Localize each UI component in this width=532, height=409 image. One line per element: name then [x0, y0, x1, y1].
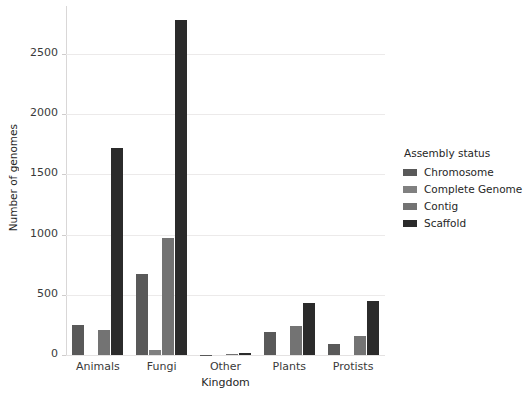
bar-fungi-complete-genome	[149, 350, 161, 355]
bar-group-other	[194, 6, 258, 355]
legend-label: Contig	[424, 201, 458, 212]
x-tick-label-plants: Plants	[273, 360, 306, 373]
bar-group-protists	[321, 6, 385, 355]
legend-label: Chromosome	[424, 167, 494, 178]
x-tick-label-protists: Protists	[333, 360, 374, 373]
legend-label: Scaffold	[424, 218, 466, 229]
x-tick-label-other: Other	[210, 360, 241, 373]
bar-chart-figure: Number of genomes Assembly status Chromo…	[0, 0, 532, 409]
bar-animals-scaffold	[111, 148, 123, 355]
legend-item-contig[interactable]: Contig	[403, 198, 531, 215]
bar-fungi-contig	[162, 238, 174, 355]
bar-protists-contig	[354, 336, 366, 355]
legend: Assembly status ChromosomeComplete Genom…	[403, 147, 531, 232]
y-tick-label: 1000	[0, 227, 58, 240]
x-tick-label-fungi: Fungi	[147, 360, 177, 373]
gridline	[66, 355, 385, 356]
clipped-chart-title	[0, 0, 532, 2]
legend-swatch-contig	[403, 203, 417, 210]
legend-item-complete-genome[interactable]: Complete Genome	[403, 181, 531, 198]
bar-fungi-chromosome	[136, 274, 148, 355]
plot-area	[66, 6, 385, 355]
y-tick-mark	[62, 355, 66, 356]
y-tick-mark	[62, 295, 66, 296]
y-tick-label: 0	[0, 347, 58, 360]
plot-inner	[66, 6, 385, 355]
legend-item-chromosome[interactable]: Chromosome	[403, 164, 531, 181]
y-tick-mark	[62, 235, 66, 236]
y-tick-mark	[62, 54, 66, 55]
bar-plants-contig	[290, 326, 302, 355]
bar-protists-chromosome	[328, 344, 340, 355]
legend-rows: ChromosomeComplete GenomeContigScaffold	[403, 164, 531, 232]
y-tick-label: 1500	[0, 166, 58, 179]
legend-swatch-complete-genome	[403, 186, 417, 193]
legend-swatch-scaffold	[403, 220, 417, 227]
bar-group-animals	[66, 6, 130, 355]
bar-plants-chromosome	[264, 332, 276, 355]
y-tick-label: 2500	[0, 46, 58, 59]
x-tick-label-animals: Animals	[76, 360, 120, 373]
bar-group-fungi	[130, 6, 194, 355]
legend-item-scaffold[interactable]: Scaffold	[403, 215, 531, 232]
y-tick-mark	[62, 174, 66, 175]
y-tick-label: 2000	[0, 106, 58, 119]
bar-fungi-scaffold	[175, 20, 187, 355]
legend-label: Complete Genome	[424, 184, 522, 195]
bar-plants-scaffold	[303, 303, 315, 355]
y-tick-mark	[62, 114, 66, 115]
x-axis-title: Kingdom	[201, 376, 250, 389]
y-tick-label: 500	[0, 287, 58, 300]
bar-other-scaffold	[239, 353, 251, 355]
bar-animals-chromosome	[72, 325, 84, 355]
bar-group-plants	[257, 6, 321, 355]
bar-animals-contig	[98, 330, 110, 355]
bar-other-contig	[226, 354, 238, 355]
legend-swatch-chromosome	[403, 169, 417, 176]
bar-protists-scaffold	[367, 301, 379, 355]
legend-title: Assembly status	[404, 147, 531, 159]
